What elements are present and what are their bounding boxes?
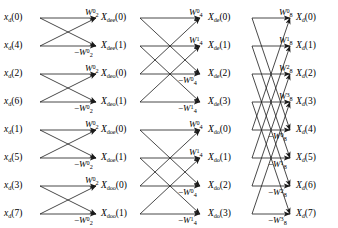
stage1-input-label-7: xd(7) <box>4 209 22 219</box>
stage3-twiddle-4: −W08 <box>268 132 287 143</box>
output-label-7: Xd(7) <box>296 209 316 219</box>
stage1-twiddle-3: −W02 <box>74 104 93 115</box>
stage3-input-label-5: Xdo(1) <box>208 153 231 163</box>
stage3-twiddle-6: −W28 <box>268 188 287 199</box>
stage3-input-label-1: Xde(1) <box>208 41 231 51</box>
stage2-input-label-7: Xdoo(1) <box>101 209 127 219</box>
stage3-input-label-4: Xdo(0) <box>208 125 231 135</box>
stage2-twiddle-5: W14 <box>189 148 203 159</box>
output-label-6: Xd(6) <box>296 181 316 191</box>
stage2-twiddle-7: −W14 <box>178 216 197 227</box>
stage1-twiddle-5: −W02 <box>74 160 93 171</box>
stage1-input-label-6: xd(3) <box>4 181 22 191</box>
stage2-input-label-0: Xdee(0) <box>101 13 126 23</box>
stage-2-lines <box>140 18 200 214</box>
stage2-input-label-4: Xdoe(0) <box>101 125 127 135</box>
stage3-input-label-2: Xde(2) <box>208 69 231 79</box>
stage3-input-label-6: Xdo(2) <box>208 181 231 191</box>
stage2-input-label-3: Xdeo(1) <box>101 97 127 107</box>
stage1-twiddle-6: W02 <box>85 176 99 187</box>
stage1-input-label-4: xd(1) <box>4 125 22 135</box>
stage3-twiddle-0: W08 <box>279 8 293 19</box>
stage2-input-label-6: Xdoo(0) <box>101 181 127 191</box>
stage1-twiddle-0: W02 <box>85 8 99 19</box>
stage1-twiddle-1: −W02 <box>74 48 93 59</box>
stage2-twiddle-6: −W04 <box>178 188 197 199</box>
output-label-0: Xd(0) <box>296 13 316 23</box>
stage1-twiddle-4: W02 <box>85 120 99 131</box>
stage3-input-label-3: Xde(3) <box>208 97 231 107</box>
stage3-twiddle-3: W38 <box>279 92 293 103</box>
stage2-twiddle-2: −W04 <box>178 76 197 87</box>
stage2-twiddle-0: W04 <box>189 8 203 19</box>
stage3-twiddle-1: W18 <box>279 36 293 47</box>
output-label-5: Xd(5) <box>296 153 316 163</box>
stage2-input-label-1: Xdee(1) <box>101 41 126 51</box>
stage-3-lines <box>252 18 290 214</box>
stage1-input-label-3: xd(6) <box>4 97 22 107</box>
stage1-input-label-5: xd(5) <box>4 153 22 163</box>
fft-butterfly-diagram: xd(0)xd(4)xd(2)xd(6)xd(1)xd(5)xd(3)xd(7)… <box>0 0 338 228</box>
stage2-input-label-2: Xdeo(0) <box>101 69 127 79</box>
stage1-input-label-1: xd(4) <box>4 41 22 51</box>
output-label-4: Xd(4) <box>296 125 316 135</box>
output-label-3: Xd(3) <box>296 97 316 107</box>
stage1-input-label-0: xd(0) <box>4 13 22 23</box>
stage3-input-label-0: Xde(0) <box>208 13 231 23</box>
stage2-twiddle-3: −W14 <box>178 104 197 115</box>
stage3-twiddle-2: W28 <box>279 64 293 75</box>
stage1-twiddle-2: W02 <box>85 64 99 75</box>
stage1-input-label-2: xd(2) <box>4 69 22 79</box>
output-label-2: Xd(2) <box>296 69 316 79</box>
stage3-twiddle-5: −W18 <box>268 160 287 171</box>
stage1-twiddle-7: −W02 <box>74 216 93 227</box>
stage2-twiddle-1: W14 <box>189 36 203 47</box>
stage2-input-label-5: Xdoe(1) <box>101 153 127 163</box>
stage3-twiddle-7: −W38 <box>268 216 287 227</box>
stage3-input-label-7: Xdo(3) <box>208 209 231 219</box>
output-label-1: Xd(1) <box>296 41 316 51</box>
stage2-twiddle-4: W04 <box>189 120 203 131</box>
